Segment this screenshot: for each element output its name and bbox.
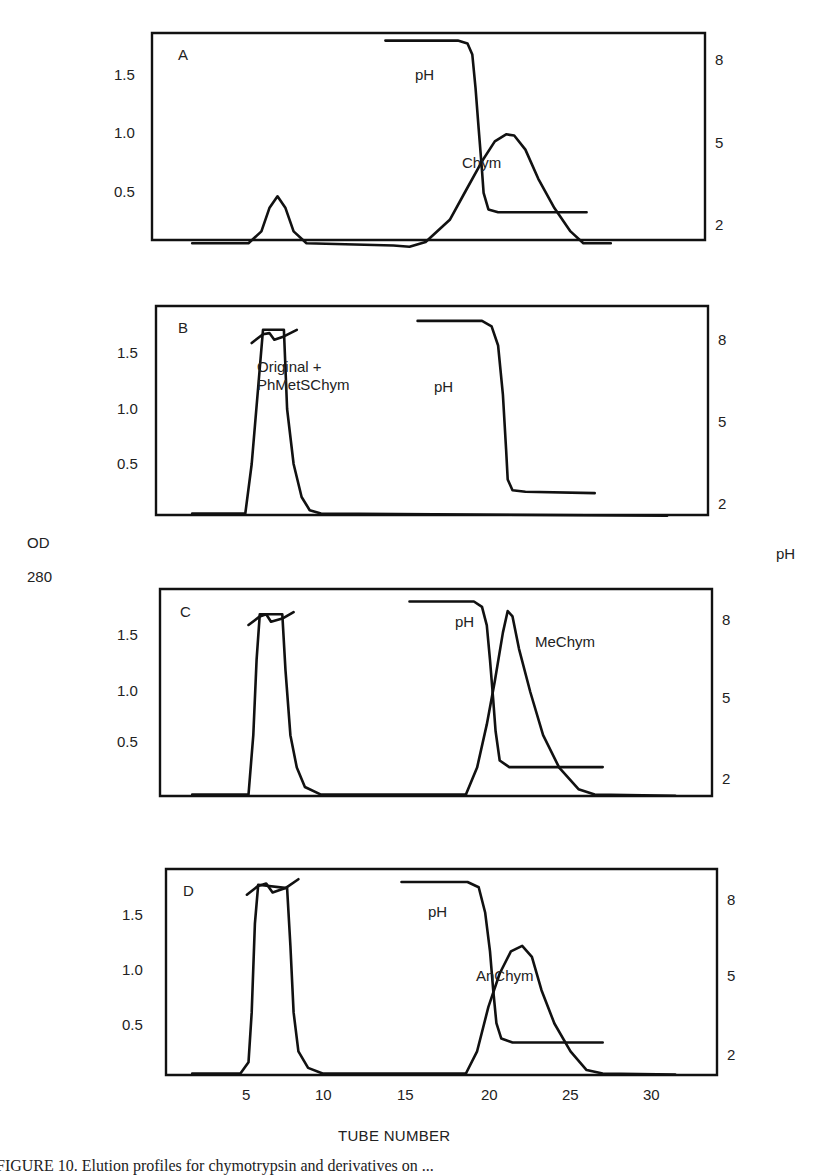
xtick-10: 10 [315, 1086, 332, 1103]
xtick-25: 25 [562, 1086, 579, 1103]
d-ph-tick-2: 2 [727, 1046, 735, 1063]
od-curve [192, 885, 466, 1074]
panel-d-plot [0, 0, 834, 1090]
d-ytick-0-5: 0.5 [122, 1016, 143, 1033]
d-anchym-curve-label: AnChym [476, 967, 534, 985]
panel-d: D 1.5 1.0 0.5 8 5 2 pH AnChym [0, 0, 834, 1090]
x-axis-title: TUBE NUMBER [338, 1127, 450, 1144]
panel-d-letter: D [183, 882, 194, 899]
xtick-15: 15 [397, 1086, 414, 1103]
xtick-5: 5 [242, 1086, 250, 1103]
d-ytick-1-0: 1.0 [122, 961, 143, 978]
d-ph-tick-8: 8 [727, 891, 735, 908]
d-ph-curve-label: pH [428, 903, 447, 921]
od-curve [466, 946, 675, 1075]
xtick-20: 20 [481, 1086, 498, 1103]
xtick-30: 30 [643, 1086, 660, 1103]
figure-caption: FIGURE 10. Elution profiles for chymotry… [0, 1157, 434, 1175]
d-ytick-1-5: 1.5 [122, 906, 143, 923]
d-ph-tick-5: 5 [727, 967, 735, 984]
